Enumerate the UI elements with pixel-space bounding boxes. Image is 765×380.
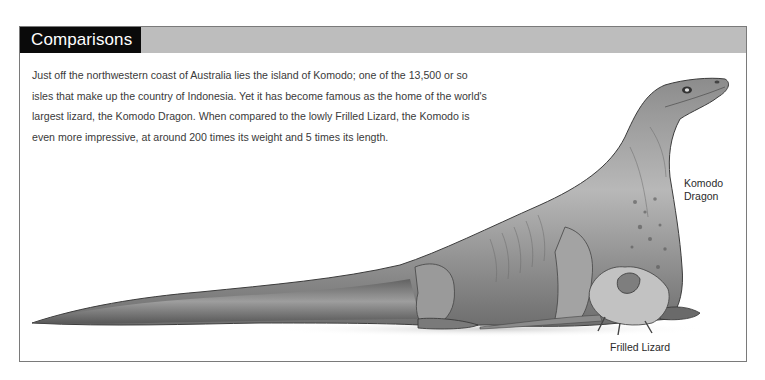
eye-highlight [685,88,689,92]
label-line: Dragon [684,190,723,203]
komodo-nostril [715,81,720,84]
komodo-illustration [20,27,746,361]
label-line: Komodo [684,177,723,190]
label-komodo-dragon: Komodo Dragon [684,177,723,203]
comparison-panel: Comparisons Just off the northwestern co… [19,26,747,362]
label-frilled-lizard: Frilled Lizard [610,341,670,354]
